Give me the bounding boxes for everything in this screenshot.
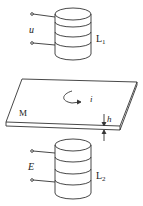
top-coil — [31, 8, 91, 60]
diagram: u L1 M i h E L2 — [0, 0, 143, 206]
thickness-label-h: h — [107, 115, 112, 124]
voltage-label-e: E — [28, 162, 34, 172]
voltage-label-u: u — [29, 25, 34, 35]
diagram-drawing — [0, 0, 143, 206]
current-label-i: i — [90, 95, 93, 104]
plate-label-m: M — [19, 109, 27, 118]
coil-label-l2: L2 — [96, 171, 106, 183]
bottom-coil — [31, 139, 91, 199]
coil-label-l1: L1 — [96, 34, 106, 46]
